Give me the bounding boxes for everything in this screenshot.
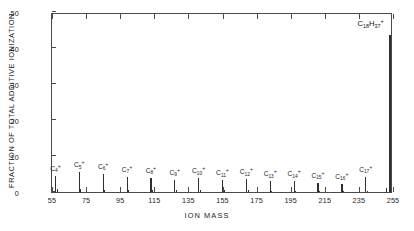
x-tick-mark [86, 187, 87, 192]
y-tick-label: .50 [0, 9, 19, 18]
x-tick-label: 95 [105, 196, 135, 205]
x-tick-label: 115 [139, 196, 169, 205]
x-tick-mark [393, 187, 394, 192]
x-tick-mark [188, 187, 189, 192]
spectrum-peak-minor [295, 191, 296, 192]
peak-label: C8+ [142, 167, 160, 174]
spectrum-peak [79, 172, 80, 192]
spectrum-peak-minor [152, 190, 153, 192]
x-tick-mark-top [188, 14, 189, 19]
y-tick-mark [52, 11, 56, 12]
spectrum-peak [55, 176, 56, 192]
spectrum-peak-minor [80, 189, 81, 192]
x-tick-label: 155 [208, 196, 238, 205]
peak-label: C17+ [357, 166, 375, 173]
peak-label: C11+ [214, 169, 232, 176]
spectrum-peak-minor [343, 191, 344, 192]
y-tick-label: .20 [0, 117, 19, 126]
x-tick-label: 215 [310, 196, 340, 205]
spectrum-peak-minor [176, 190, 177, 192]
spectrum-peak [365, 177, 366, 192]
x-tick-mark [325, 187, 326, 192]
x-tick-mark [291, 187, 292, 192]
x-tick-mark-top [291, 14, 292, 19]
x-tick-mark-top [52, 14, 53, 19]
x-tick-label: 55 [37, 196, 67, 205]
x-tick-mark [154, 187, 155, 192]
x-axis-title: ION MASS [0, 211, 414, 220]
spectrum-peak [174, 180, 175, 192]
y-tick-label: .10 [0, 153, 19, 162]
spectrum-peak-minor [200, 190, 201, 192]
peak-label: C6+ [94, 163, 112, 170]
peak-label: C5+ [70, 161, 88, 168]
spectrum-peak [294, 181, 295, 192]
x-tick-mark [120, 187, 121, 192]
y-tick-label: 0 [0, 189, 19, 198]
spectrum-peak [341, 184, 342, 192]
y-tick-mark [52, 119, 56, 120]
x-tick-mark [257, 187, 258, 192]
x-tick-label: 255 [378, 196, 408, 205]
spectrum-peak-minor [57, 189, 58, 192]
x-tick-mark-top [257, 14, 258, 19]
x-tick-mark-top [223, 14, 224, 19]
y-axis-title: FRACTION OF TOTAL ADDITIVE IONIZATION [7, 6, 16, 196]
peak-label: C14+ [285, 170, 303, 177]
x-tick-label: 175 [242, 196, 272, 205]
y-tick-mark [52, 47, 56, 48]
spectrum-peak-minor [271, 191, 272, 192]
spectrum-peak [103, 174, 104, 192]
main-peak-annotation: C18H37+ [358, 19, 384, 28]
plot-area: 557595115135155175195215235255C4+C5+C6+C… [51, 13, 392, 193]
peak-label: C10+ [190, 167, 208, 174]
peak-label: C7+ [118, 166, 136, 173]
x-tick-label: 195 [276, 196, 306, 205]
y-tick-label: .40 [0, 45, 19, 54]
spectrum-peak-minor [248, 190, 249, 192]
x-tick-mark-top [154, 14, 155, 19]
spectrum-peak-minor [386, 188, 387, 192]
x-tick-label: 135 [173, 196, 203, 205]
spectrum-peak [222, 180, 223, 192]
y-tick-mark [52, 155, 56, 156]
spectrum-peak [198, 178, 199, 192]
spectrum-peak-minor [367, 191, 368, 192]
spectrum-peak [246, 179, 247, 192]
y-tick-label: .30 [0, 81, 19, 90]
mass-spectrum-figure: FRACTION OF TOTAL ADDITIVE IONIZATION 55… [0, 0, 414, 231]
x-tick-mark-top [86, 14, 87, 19]
spectrum-peak [389, 35, 391, 192]
spectrum-peak [270, 181, 271, 192]
peak-label: C4+ [46, 165, 64, 172]
spectrum-peak [127, 177, 128, 192]
y-tick-mark [52, 83, 56, 84]
peak-label: C12+ [237, 168, 255, 175]
spectrum-peak-minor [319, 191, 320, 192]
peak-label: C13+ [261, 170, 279, 177]
x-tick-mark [52, 187, 53, 192]
peak-label: C16+ [333, 173, 351, 180]
x-tick-label: 75 [71, 196, 101, 205]
x-tick-mark-top [393, 14, 394, 19]
x-tick-label: 235 [344, 196, 374, 205]
spectrum-peak [150, 178, 151, 192]
x-tick-mark-top [325, 14, 326, 19]
spectrum-peak-minor [224, 190, 225, 192]
x-tick-mark-top [120, 14, 121, 19]
spectrum-peak [317, 183, 318, 192]
x-tick-mark [359, 187, 360, 192]
peak-label: C9+ [166, 169, 184, 176]
peak-label: C15+ [309, 172, 327, 179]
spectrum-peak-minor [128, 190, 129, 192]
spectrum-peak-minor [104, 190, 105, 192]
